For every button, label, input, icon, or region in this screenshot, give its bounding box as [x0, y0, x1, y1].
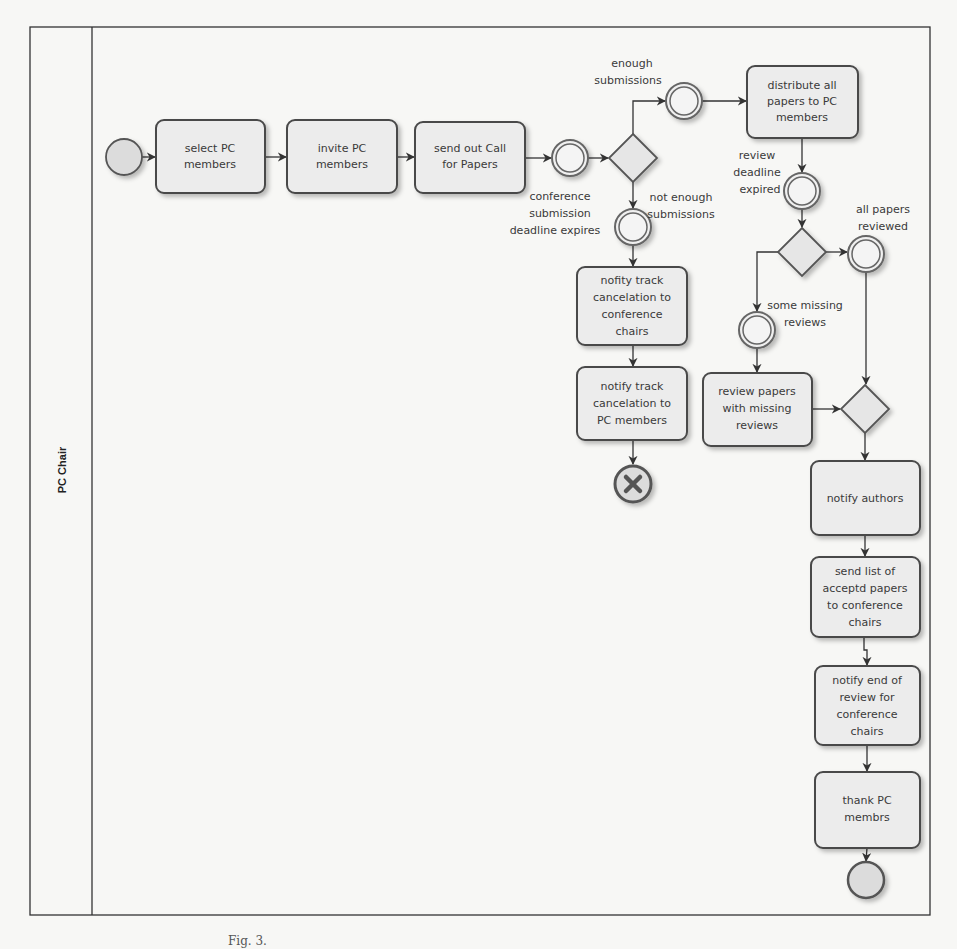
task-label: notify authors — [827, 492, 904, 505]
task-label: chairs — [848, 616, 881, 629]
task-label: PC members — [597, 414, 667, 427]
task-label: members — [776, 111, 828, 124]
start-event[interactable] — [106, 139, 142, 175]
intermediate-event-not-enough-submissions[interactable] — [615, 209, 651, 245]
task-label: to conference — [827, 599, 903, 612]
task-label: review for — [840, 691, 895, 704]
label-submission-deadline: deadline expires — [510, 224, 601, 237]
task-label: thank PC — [842, 794, 891, 807]
label-not-enough-submissions: not enough — [650, 191, 713, 204]
task-label: with missing — [722, 402, 791, 415]
task-notify-end-review[interactable]: notify end of review for conference chai… — [815, 666, 920, 745]
task-select-pc-members[interactable]: select PC members — [156, 120, 265, 193]
task-label: review papers — [718, 385, 796, 398]
label-enough-submissions: enough — [611, 57, 652, 70]
end-event[interactable] — [848, 862, 884, 898]
task-label: conference — [601, 308, 662, 321]
task-label: acceptd papers — [822, 582, 907, 595]
task-label: select PC — [185, 142, 236, 155]
task-label: conference — [836, 708, 897, 721]
task-label: send out Call — [434, 142, 506, 155]
task-label: cancelation to — [593, 397, 671, 410]
task-label: cancelation to — [593, 291, 671, 304]
flow-thank-to-end — [866, 848, 867, 861]
label-all-reviewed: reviewed — [858, 220, 908, 233]
label-all-reviewed: all papers — [856, 203, 910, 216]
task-label: members — [316, 158, 368, 171]
task-label: reviews — [736, 419, 778, 432]
label-some-missing: some missing — [767, 299, 843, 312]
flow-gateway1-to-enough — [633, 101, 665, 134]
task-label: notify track — [601, 380, 664, 393]
task-label: chairs — [615, 325, 648, 338]
bpmn-diagram: PC Chair select PC members — [0, 0, 957, 949]
task-notify-cancel-chairs[interactable]: nofity track cancelation to conference c… — [577, 267, 687, 345]
label-review-deadline: review — [739, 149, 775, 162]
event-gateway-submissions[interactable] — [609, 134, 657, 182]
task-label: nofity track — [601, 274, 665, 287]
task-notify-cancel-pc[interactable]: notify track cancelation to PC members — [577, 367, 687, 440]
task-distribute-papers[interactable]: distribute all papers to PC members — [747, 66, 858, 138]
task-send-accepted-list[interactable]: send list of acceptd papers to conferenc… — [811, 557, 920, 637]
task-label: papers to PC — [767, 95, 837, 108]
task-send-call-for-papers[interactable]: send out Call for Papers — [415, 122, 525, 193]
task-label: notify end of — [832, 674, 903, 687]
intermediate-event-enough-submissions[interactable] — [666, 83, 702, 119]
label-submission-deadline: conference — [529, 190, 590, 203]
label-enough-submissions: submissions — [594, 74, 662, 87]
intermediate-event-some-missing[interactable] — [739, 312, 775, 348]
merge-gateway[interactable] — [841, 385, 889, 433]
label-submission-deadline: submission — [529, 207, 591, 220]
task-invite-pc-members[interactable]: invite PC members — [287, 120, 397, 193]
intermediate-event-submission-deadline[interactable] — [552, 140, 588, 176]
task-review-missing[interactable]: review papers with missing reviews — [703, 373, 812, 446]
lane-label-pc-chair: PC Chair — [56, 446, 68, 493]
cancel-end-event[interactable] — [615, 466, 651, 502]
task-label: send list of — [835, 565, 896, 578]
task-label: membrs — [844, 811, 890, 824]
intermediate-event-review-deadline[interactable] — [784, 173, 820, 209]
label-some-missing: reviews — [784, 316, 826, 329]
figure-caption: Fig. 3. — [228, 934, 267, 948]
event-gateway-reviews[interactable] — [778, 228, 826, 276]
intermediate-event-all-reviewed[interactable] — [848, 236, 884, 272]
task-notify-authors[interactable]: notify authors — [811, 461, 920, 535]
task-label: members — [184, 158, 236, 171]
task-label: chairs — [850, 725, 883, 738]
task-thank-pc[interactable]: thank PC membrs — [815, 772, 920, 848]
task-label: for Papers — [442, 158, 498, 171]
label-review-deadline: expired — [739, 183, 780, 196]
sequence-flows — [142, 101, 867, 861]
label-review-deadline: deadline — [733, 166, 781, 179]
label-not-enough-submissions: submissions — [647, 208, 715, 221]
task-label: distribute all — [767, 79, 836, 92]
task-label: invite PC — [318, 142, 367, 155]
flow-sendlist-to-notifyend — [864, 637, 867, 665]
